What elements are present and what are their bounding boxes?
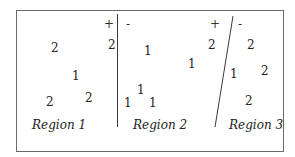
region-1-number: 2 [85, 91, 93, 105]
region-1-plus-sign: + [104, 17, 114, 31]
region-1: 2 1 2 2 + 2 Region 1 [31, 17, 116, 132]
region-3-minus-sign: - [238, 17, 242, 31]
region-1-number: 2 [51, 41, 59, 55]
region-1-edge-number: 2 [108, 38, 116, 52]
region-3-number: 2 [261, 64, 269, 78]
region-3-number: 1 [230, 67, 238, 81]
region-diagram: 2 1 2 2 + 2 Region 1 - 1 1 1 1 1 + 2 Reg… [0, 0, 295, 157]
region-2-label: Region 2 [132, 118, 187, 132]
region-2-edge-number: 2 [208, 38, 216, 52]
region-2-number: 1 [149, 96, 157, 110]
region-3-number: 2 [245, 94, 253, 108]
region-2-number: 1 [124, 96, 132, 110]
region-2-number: 1 [137, 83, 145, 97]
region-3-label: Region 3 [228, 118, 283, 132]
region-1-number: 1 [72, 69, 80, 83]
region-2-minus-sign: - [126, 17, 130, 31]
region-2: - 1 1 1 1 1 + 2 Region 2 [124, 17, 220, 132]
region-1-label: Region 1 [31, 118, 86, 132]
region-2-plus-sign: + [210, 17, 220, 31]
region-3-number: 2 [247, 38, 255, 52]
region-3: - 2 1 2 2 Region 3 [228, 17, 283, 132]
region-2-number: 1 [144, 44, 152, 58]
region-2-number: 1 [188, 57, 196, 71]
region-1-number: 2 [46, 95, 54, 109]
